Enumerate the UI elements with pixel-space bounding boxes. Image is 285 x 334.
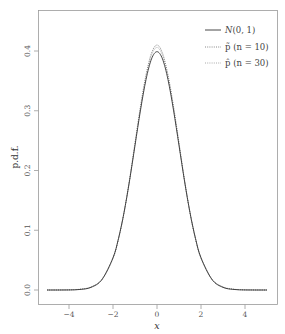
x-axis: −4 −2 0 2 4 x [63, 305, 247, 332]
series-line-p-hat-n30 [47, 47, 267, 290]
y-tick-label: 0.3 [23, 105, 32, 117]
legend-label-normal: N(0, 1) [224, 25, 255, 35]
series-line-normal [47, 52, 267, 290]
x-tick-label: 2 [199, 310, 204, 319]
x-tick-label: −2 [107, 310, 118, 319]
legend-label-p-tilde-n10: p̃ (n = 10) [225, 42, 269, 52]
series-line-p-tilde-n10 [47, 45, 267, 290]
x-tick-label: 0 [155, 310, 160, 319]
y-tick-label: 0.4 [23, 45, 32, 57]
y-tick-label: 0.1 [23, 224, 32, 236]
x-tick-label: −4 [63, 310, 74, 319]
x-axis-title: x [154, 320, 160, 331]
y-tick-label: 0.2 [23, 164, 32, 176]
y-axis: 0.0 0.1 0.2 0.3 0.4 p.d.f. [10, 45, 39, 296]
legend: N(0, 1) p̃ (n = 10) p̂ (n = 30) [205, 25, 269, 68]
legend-label-p-hat-n30: p̂ (n = 30) [225, 58, 269, 68]
y-tick-label: 0.0 [23, 284, 32, 296]
x-tick-label: 4 [243, 310, 248, 319]
plot-frame [39, 11, 278, 305]
y-axis-title: p.d.f. [10, 145, 20, 168]
series-layer [47, 45, 267, 290]
pdf-comparison-chart: 0.0 0.1 0.2 0.3 0.4 p.d.f. −4 −2 0 2 4 x… [0, 0, 285, 334]
